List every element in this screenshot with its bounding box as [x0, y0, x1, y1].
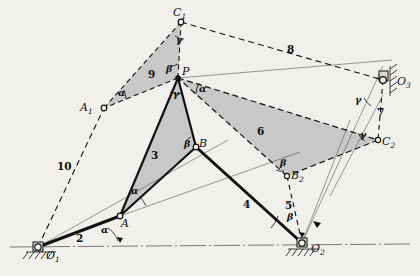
angle-alpha-at-p: α [199, 84, 206, 94]
angle-beta-at-p: β [166, 64, 172, 74]
link-8-dashed [181, 22, 383, 80]
angle-gamma-at-o3: γ [355, 95, 361, 105]
angle-gamma-at-p: γ [173, 89, 179, 99]
point-label-O3: O3 [397, 76, 411, 90]
point-label-C2: C2 [382, 136, 395, 150]
link-number-2: 2 [76, 233, 83, 244]
link-number-3: 3 [151, 150, 158, 161]
point-label-O1: O1 [46, 250, 60, 264]
link-number-10: 10 [57, 161, 72, 172]
ground-line [10, 244, 412, 247]
linkage-drawing [0, 0, 420, 276]
point-label-O2: O2 [311, 243, 325, 257]
angle-beta-at-b: β [184, 139, 190, 149]
link-number-9: 9 [148, 69, 155, 80]
point-label-P: P [182, 66, 189, 80]
angle-beta-at-o2: β [287, 212, 293, 222]
ground-hatch-o3 [390, 64, 397, 96]
point-label-A: A [121, 218, 129, 232]
point-label-A1: A1 [80, 102, 93, 116]
link-number-8: 8 [287, 44, 294, 55]
angle-gamma-at-c2: γ [360, 130, 366, 140]
link-number-6: 6 [257, 126, 264, 137]
link-number-5: 5 [285, 200, 292, 211]
angle-alpha-at-o1: α [101, 225, 108, 235]
angle-alpha-at-a1: α [118, 88, 125, 98]
point-label-B: B [199, 138, 207, 152]
point-label-B2: B2 [291, 170, 304, 184]
angle-gamma-at-c1: γ [176, 35, 182, 45]
link-number-4: 4 [243, 199, 250, 210]
point-label-C1: C1 [173, 7, 186, 21]
angle-beta-at-b2: β [280, 158, 286, 168]
angle-alpha-at-a: α [131, 186, 138, 196]
link-number-7: 7 [377, 107, 384, 118]
diagram-canvas: O1 O2 O3 A B P A1 B2 C1 C2 2 3 4 5 6 7 8… [0, 0, 420, 276]
